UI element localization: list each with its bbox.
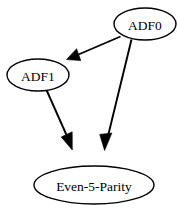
node-even5parity[interactable]: Even-5-Parity (34, 166, 154, 204)
edge-adf1-to-even5parity-line (47, 90, 67, 135)
arrowhead-icon (67, 49, 81, 61)
edge-adf0-to-adf1-line (79, 37, 121, 55)
directed-graph: ADF0 ADF1 Even-5-Parity (0, 0, 178, 212)
node-adf0[interactable]: ADF0 (114, 8, 176, 40)
arrowhead-icon (100, 133, 112, 151)
node-adf0-label: ADF0 (128, 18, 162, 33)
edge-adf0-to-even5parity-line (108, 40, 132, 137)
arrowhead-icon (61, 132, 72, 150)
diagram-canvas: ADF0 ADF1 Even-5-Parity (0, 0, 178, 212)
edge-adf0-to-adf1 (67, 37, 121, 61)
edge-adf0-to-even5parity (100, 40, 132, 151)
node-adf1-label: ADF1 (21, 69, 55, 84)
edge-adf1-to-even5parity (47, 90, 73, 150)
node-adf1[interactable]: ADF1 (7, 59, 69, 91)
node-even5parity-label: Even-5-Parity (56, 179, 132, 194)
